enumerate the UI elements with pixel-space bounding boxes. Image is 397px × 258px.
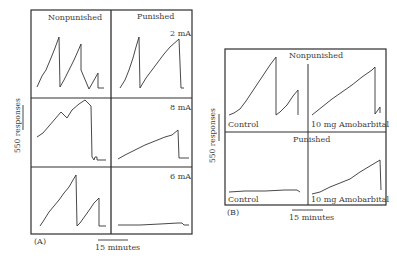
panel-b-row-header-punished: Punished [293,135,330,144]
panel-b-row-header-nonpunished: Nonpunished [289,51,343,60]
panel-b-label-nonpunished-amobarbital: 10 mg Amobarbital [311,120,389,129]
trace-a-punished-2ma [120,37,184,88]
panel-b-tag: (B) [227,208,239,217]
panel-a-row-label-6ma: 6 mA [170,172,191,181]
panel-b-y-scale-label: 550 responses [208,108,217,163]
panel-b-label-punished-amobarbital: 10 mg Amobarbital [311,195,389,204]
panel-a-col-header-nonpunished: Nonpunished [48,13,102,22]
trace-a-nonpunished-6ma [40,175,106,226]
trace-b-punished-control [229,190,300,192]
panel-a-row-label-8ma: 8 mA [170,103,191,112]
panel-a-tag: (A) [34,237,46,246]
trace-a-nonpunished-2ma [37,37,104,89]
figure-canvas [0,0,397,258]
panel-b-x-scale-label: 15 minutes [289,213,334,222]
panel-b-label-nonpunished-control: Control [228,120,259,129]
panel-a-row-label-2ma: 2 mA [170,29,191,38]
trace-b-nonpunished-control [229,57,298,115]
trace-b-nonpunished-amobarbital [312,67,380,115]
panel-a-x-scale-label: 15 minutes [95,243,140,252]
trace-b-punished-amobarbital [312,160,381,194]
panel-b-label-punished-control: Control [228,195,259,204]
panel-a-y-scale-label: 550 responses [13,98,22,153]
trace-a-punished-8ma [118,130,189,159]
panel-a-col-header-punished: Punished [137,12,174,21]
trace-a-punished-6ma [118,223,189,225]
trace-a-nonpunished-8ma [37,100,106,160]
